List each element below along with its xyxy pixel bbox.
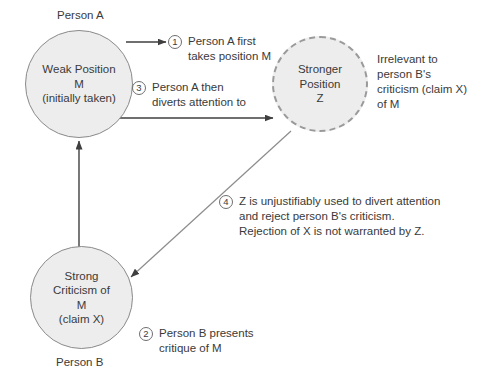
actor-label-person-a: Person A xyxy=(57,8,104,22)
step-3-number: 3 xyxy=(132,81,146,95)
actor-label-person-b: Person B xyxy=(56,355,103,369)
step-2-text: Person B presents critique of M xyxy=(159,326,254,356)
node-stronger-position-z: Stronger Position Z xyxy=(272,36,368,132)
step-3: 3 Person A then diverts attention to xyxy=(132,80,246,110)
step-2: 2 Person B presents critique of M xyxy=(139,326,254,356)
node-weak-position-m: Weak Position M (initially taken) xyxy=(25,30,133,138)
diagram-canvas: Person A Weak Position M (initially take… xyxy=(0,0,483,384)
node-strong-criticism-m-label: Strong Criticism of M (claim X) xyxy=(47,269,116,327)
side-note-irrelevant: Irrelevant to person B's criticism (clai… xyxy=(377,52,481,112)
step-1: 1 Person A first takes position M xyxy=(168,34,271,64)
step-2-number: 2 xyxy=(139,327,153,341)
step-1-number: 1 xyxy=(168,35,182,49)
step-1-text: Person A first takes position M xyxy=(188,34,271,64)
step-4: 4 Z is unjustifiably used to divert atte… xyxy=(219,194,440,239)
node-weak-position-m-label: Weak Position M (initially taken) xyxy=(36,62,122,106)
node-strong-criticism-m: Strong Criticism of M (claim X) xyxy=(30,246,133,349)
step-4-number: 4 xyxy=(219,195,233,209)
step-4-text: Z is unjustifiably used to divert attent… xyxy=(239,194,440,239)
node-stronger-position-z-label: Stronger Position Z xyxy=(292,62,348,106)
step-3-text: Person A then diverts attention to xyxy=(152,80,246,110)
